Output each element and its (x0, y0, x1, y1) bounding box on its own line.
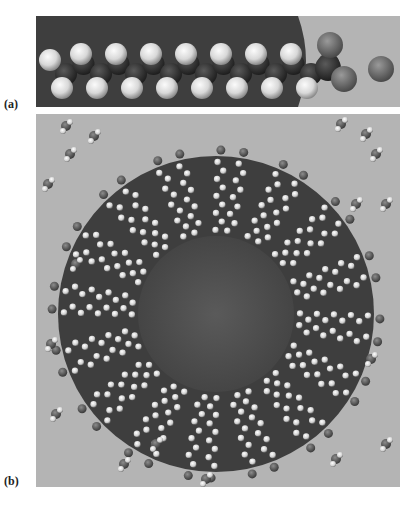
chain-hydrogen-atom (168, 202, 174, 208)
chain-hydrogen-atom (70, 304, 76, 310)
head-group-atom (216, 146, 225, 155)
chain-hydrogen-atom (186, 452, 192, 458)
chain-hydrogen-atom (227, 211, 233, 217)
chain-hydrogen-atom (61, 309, 67, 315)
chain-hydrogen-atom (318, 240, 324, 246)
chain-hydrogen-atom (292, 191, 298, 197)
water-hydrogen-atom (360, 136, 366, 142)
chain-hydrogen-atom (265, 187, 271, 193)
chain-hydrogen-atom (172, 394, 178, 400)
chain-hydrogen-atom (291, 181, 297, 187)
chain-hydrogen-atom (73, 251, 79, 257)
water-hydrogen-atom (350, 206, 356, 212)
water-hydrogen-atom (52, 337, 58, 343)
chain-hydrogen-atom (332, 230, 338, 236)
panel-b-label: (b) (4, 474, 19, 489)
chain-hydrogen-atom (296, 322, 302, 328)
chain-hydrogen-atom (246, 442, 252, 448)
chain-hydrogen-atom (171, 192, 177, 198)
chain-hydrogen-atom (152, 230, 158, 236)
head-group-atom (350, 397, 359, 406)
head-group-atom (371, 273, 380, 282)
chain-hydrogen-atom (206, 437, 212, 443)
chain-hydrogen-atom (188, 435, 194, 441)
chain-hydrogen-atom (120, 272, 126, 278)
chain-hydrogen-atom (72, 340, 78, 346)
chain-hydrogen-atom (79, 291, 85, 297)
chain-hydrogen-atom (86, 304, 92, 310)
chain-hydrogen-atom (307, 226, 313, 232)
chain-hydrogen-atom (286, 393, 292, 399)
chain-hydrogen-atom (348, 312, 354, 318)
chain-hydrogen-atom (321, 204, 327, 210)
water-hydrogen-atom (337, 452, 343, 458)
chain-hydrogen-atom (318, 381, 324, 387)
hydrogen-atom (140, 43, 162, 65)
chain-hydrogen-atom (231, 220, 237, 226)
chain-hydrogen-atom (122, 328, 128, 334)
chain-hydrogen-atom (94, 391, 100, 397)
chain-hydrogen-atom (115, 336, 121, 342)
chain-hydrogen-atom (93, 232, 99, 238)
chain-hydrogen-atom (82, 344, 88, 350)
head-group-atom (270, 463, 279, 472)
panel-a-surfactant-molecule (36, 16, 400, 107)
chain-hydrogen-atom (90, 401, 96, 407)
chain-hydrogen-atom (152, 402, 158, 408)
chain-hydrogen-atom (245, 233, 251, 239)
chain-hydrogen-atom (242, 451, 248, 457)
chain-hydrogen-atom (259, 202, 265, 208)
chain-hydrogen-atom (303, 433, 309, 439)
chain-hydrogen-atom (233, 177, 239, 183)
chain-hydrogen-atom (167, 420, 173, 426)
chain-hydrogen-atom (346, 331, 352, 337)
chain-hydrogen-atom (332, 269, 338, 275)
chain-hydrogen-atom (291, 343, 297, 349)
chain-hydrogen-atom (240, 170, 246, 176)
chain-hydrogen-atom (337, 286, 343, 292)
hydrogen-atom (280, 43, 302, 65)
chain-hydrogen-atom (142, 216, 148, 222)
chain-hydrogen-atom (353, 282, 359, 288)
water-hydrogen-atom (365, 361, 371, 367)
chain-hydrogen-atom (356, 318, 362, 324)
chain-hydrogen-atom (117, 406, 123, 412)
chain-hydrogen-atom (196, 428, 202, 434)
chain-hydrogen-atom (283, 416, 289, 422)
chain-hydrogen-atom (207, 403, 213, 409)
water-hydrogen-atom (45, 346, 51, 352)
head-group-atom (117, 176, 126, 185)
chain-hydrogen-atom (188, 187, 194, 193)
chain-hydrogen-atom (261, 212, 267, 218)
chain-hydrogen-atom (117, 204, 123, 210)
chain-hydrogen-atom (294, 250, 300, 256)
chain-hydrogen-atom (296, 395, 302, 401)
chain-hydrogen-atom (199, 411, 205, 417)
chain-hydrogen-atom (161, 387, 167, 393)
chain-hydrogen-atom (154, 371, 160, 377)
chain-hydrogen-atom (122, 250, 128, 256)
water-hydrogen-atom (387, 437, 393, 443)
chain-hydrogen-atom (103, 305, 109, 311)
hydrogen-atom (70, 43, 92, 65)
chain-hydrogen-atom (321, 230, 327, 236)
chain-hydrogen-atom (293, 430, 299, 436)
head-group-atom (92, 422, 101, 431)
chain-hydrogen-atom (97, 241, 103, 247)
micelle-render (36, 114, 400, 487)
chain-hydrogen-atom (270, 452, 276, 458)
chain-hydrogen-atom (119, 395, 125, 401)
chain-hydrogen-atom (105, 332, 111, 338)
chain-hydrogen-atom (140, 269, 146, 275)
water-hydrogen-atom (367, 127, 373, 133)
chain-hydrogen-atom (129, 394, 135, 400)
chain-hydrogen-atom (304, 329, 310, 335)
head-group-atom (58, 368, 67, 377)
head-group-atom (279, 160, 288, 169)
chain-hydrogen-atom (212, 227, 218, 233)
chain-hydrogen-atom (289, 363, 295, 369)
hydrogen-atom (39, 49, 61, 71)
chain-hydrogen-atom (252, 218, 258, 224)
chain-hydrogen-atom (353, 370, 359, 376)
chain-hydrogen-atom (95, 310, 101, 316)
